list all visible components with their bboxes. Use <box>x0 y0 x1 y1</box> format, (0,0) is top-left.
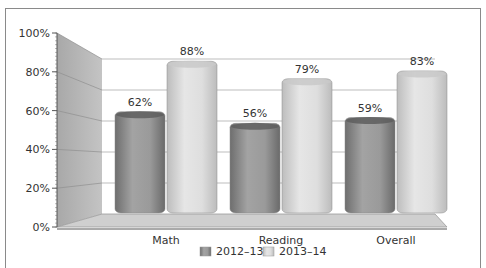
floor <box>57 214 447 227</box>
bar-math-2013-14: 88% <box>167 45 217 213</box>
legend-swatch <box>263 247 274 256</box>
bar-math-2012-13: 62% <box>115 96 165 213</box>
y-tick-label: 0% <box>33 221 50 234</box>
bar-reading-2012-13: 56% <box>230 107 280 213</box>
y-tick-label: 80% <box>26 66 50 79</box>
side-wall <box>57 33 102 227</box>
y-tick-label: 100% <box>19 27 50 40</box>
legend-label: 2012–13 <box>216 245 264 258</box>
y-tick-label: 60% <box>26 105 50 118</box>
bar-overall-2013-14: 83% <box>397 55 447 213</box>
data-label: 83% <box>410 55 434 68</box>
x-category-label: Math <box>152 234 180 247</box>
legend-item-1: 2013–14 <box>263 245 327 258</box>
data-label: 79% <box>295 63 319 76</box>
legend-label: 2013–14 <box>279 245 327 258</box>
data-label: 56% <box>243 107 267 120</box>
legend-item-0: 2012–13 <box>200 245 264 258</box>
data-label: 59% <box>358 102 382 115</box>
data-label: 62% <box>128 96 152 109</box>
bar-overall-2012-13: 59% <box>345 102 395 213</box>
y-tick-label: 40% <box>26 143 50 156</box>
bar-reading-2013-14: 79% <box>282 63 332 213</box>
data-label: 88% <box>180 45 204 58</box>
y-tick-label: 20% <box>26 182 50 195</box>
legend-swatch <box>200 247 211 256</box>
x-category-label: Overall <box>376 234 415 247</box>
